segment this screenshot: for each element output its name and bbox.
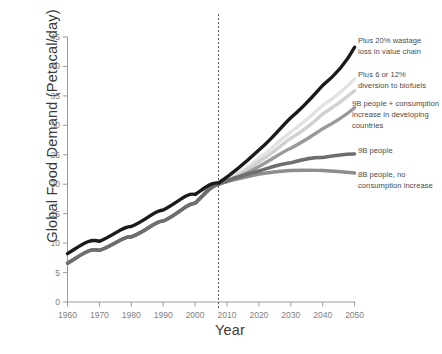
series-lines xyxy=(68,47,355,263)
x-tick-label-1970: 1970 xyxy=(82,310,116,320)
x-tick-marks xyxy=(68,302,355,307)
y-tick-label-40: 40 xyxy=(38,61,60,71)
y-tick-label-30: 30 xyxy=(38,120,60,130)
annotation-8b: 8B people, no consumption increase xyxy=(358,170,442,192)
y-tick-label-25: 25 xyxy=(38,150,60,160)
x-tick-label-2030: 2030 xyxy=(274,310,308,320)
y-tick-label-5: 5 xyxy=(38,268,60,278)
y-tick-label-0: 0 xyxy=(38,297,60,307)
y-tick-label-15: 15 xyxy=(38,209,60,219)
x-axis-title: Year xyxy=(150,322,310,338)
y-tick-label-10: 10 xyxy=(38,238,60,248)
y-tick-label-35: 35 xyxy=(38,91,60,101)
series-line-wastage xyxy=(68,47,355,253)
annotation-9b-consumption: 9B people + consumption increase in deve… xyxy=(352,99,442,131)
annotation-wastage: Plus 20% wastage loss in value chain xyxy=(358,36,440,58)
y-tick-label-20: 20 xyxy=(38,179,60,189)
x-tick-label-2000: 2000 xyxy=(178,310,212,320)
annotation-9b: 9B people xyxy=(358,146,440,157)
x-tick-label-2050: 2050 xyxy=(338,310,372,320)
y-tick-label-45: 45 xyxy=(38,32,60,42)
chart-container: Global Food Demand (Petacal/day) Year 0 … xyxy=(0,0,442,354)
x-tick-label-2040: 2040 xyxy=(306,310,340,320)
x-tick-label-1960: 1960 xyxy=(51,310,85,320)
x-tick-label-1980: 1980 xyxy=(114,310,148,320)
annotation-biofuels: Plus 6 or 12% diversion to biofuels xyxy=(358,70,440,92)
x-tick-label-2020: 2020 xyxy=(242,310,276,320)
x-tick-label-1990: 1990 xyxy=(146,310,180,320)
x-tick-label-2010: 2010 xyxy=(210,310,244,320)
